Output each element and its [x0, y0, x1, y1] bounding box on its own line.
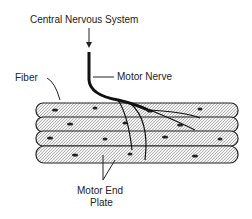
fiber-pointer — [47, 78, 60, 100]
label-motor-nerve: Motor Nerve — [117, 71, 172, 82]
fiber-3 — [36, 131, 238, 146]
cns-arrow — [86, 28, 92, 48]
muscle-fibers — [36, 103, 238, 163]
label-fiber: Fiber — [15, 72, 38, 83]
fiber-2 — [36, 117, 238, 132]
label-plate: Plate — [90, 197, 113, 208]
label-motor-end: Motor End — [77, 185, 123, 196]
label-central-nervous-system: Central Nervous System — [30, 14, 138, 25]
neuromuscular-diagram — [0, 0, 252, 219]
fiber-4 — [36, 146, 238, 163]
